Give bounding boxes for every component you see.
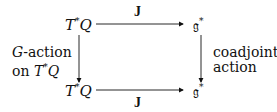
node-rest: Q — [80, 82, 92, 100]
node-bottom-right: 𝔤* — [193, 83, 204, 99]
node-bottom-left: T*Q — [65, 83, 92, 99]
group-var: G — [12, 44, 23, 60]
top-edge-label: J — [134, 4, 141, 20]
right-label-line2: action — [213, 60, 277, 75]
node-top-left: T*Q — [65, 17, 92, 33]
node-top-right: 𝔤* — [193, 17, 204, 33]
node-base: T — [65, 16, 75, 34]
right-edge-label: coadjoint action — [213, 45, 277, 75]
space-rest: Q — [48, 63, 59, 79]
on-text: on — [12, 63, 34, 79]
node-sup: * — [199, 16, 204, 26]
left-label-line2: on T*Q — [12, 60, 72, 79]
node-rest: Q — [80, 16, 92, 34]
left-edge-label: G-action on T*Q — [12, 45, 72, 79]
node-sup: * — [199, 82, 204, 92]
action-text: -action — [23, 44, 71, 60]
node-base: T — [65, 82, 75, 100]
space-base: T — [34, 63, 43, 79]
bottom-edge-label: J — [134, 95, 141, 111]
right-label-line1: coadjoint — [213, 45, 277, 60]
left-label-line1: G-action — [12, 45, 72, 60]
